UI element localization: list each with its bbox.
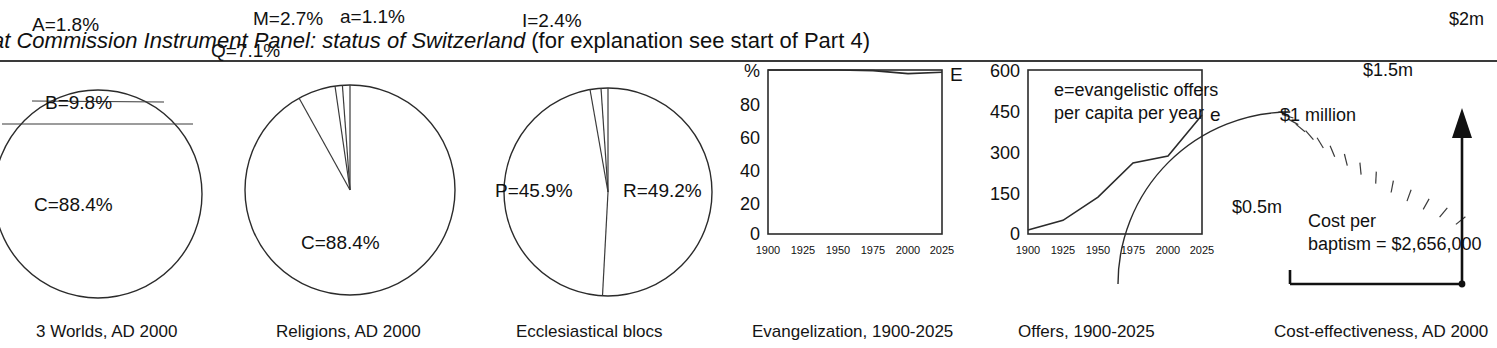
evangelization-series-label: E <box>950 64 963 85</box>
three-worlds-label-b: B=9.8% <box>45 92 112 114</box>
offers-ytick-300: 300 <box>990 143 1020 163</box>
offers-xtick-2025: 2025 <box>1190 244 1214 256</box>
gauge-ticks <box>1278 112 1465 224</box>
evangelization-xtick-1900: 1900 <box>756 244 780 256</box>
evangelization-xtick-2025: 2025 <box>930 244 954 256</box>
gauge-label-0-5m: $0.5m <box>1232 197 1282 218</box>
panel-religions: M=2.7% Q=7.1% a=1.1% C=88.4% <box>215 62 495 312</box>
evangelization-ytick-pct: % <box>744 61 760 81</box>
ecclesiastical-divider-bottom <box>603 192 609 296</box>
panel-offers: 600 450 300 150 0 1900 1925 1950 1975 20… <box>982 62 1257 312</box>
religions-label-c: C=88.4% <box>301 232 380 254</box>
offers-ytick-150: 150 <box>990 184 1020 204</box>
panel-cost-effectiveness: $0.5m $1 million $1.5m $2m Cost per bapt… <box>1240 62 1497 312</box>
offers-xtick-1925: 1925 <box>1051 244 1075 256</box>
offers-note-line1: e=evangelistic offers <box>1054 79 1218 102</box>
caption-evangelization: Evangelization, 1900-2025 <box>752 322 953 342</box>
evangelization-chart: % 80 60 40 20 0 1900 1925 1950 1975 2000… <box>722 62 992 312</box>
offers-note-line2: per capita per year <box>1054 102 1218 125</box>
gauge-label-1-5m: $1.5m <box>1363 60 1413 81</box>
gauge-note-line1: Cost per <box>1308 210 1482 233</box>
caption-three-worlds: 3 Worlds, AD 2000 <box>36 322 177 342</box>
religions-divider-q <box>299 98 350 190</box>
offers-ytick-0: 0 <box>1010 224 1020 244</box>
religions-pie <box>245 85 455 295</box>
offers-ytick-450: 450 <box>990 102 1020 122</box>
panel-three-worlds: A=1.8% B=9.8% C=88.4% <box>0 62 210 312</box>
offers-xtick-1975: 1975 <box>1121 244 1145 256</box>
caption-ecclesiastical-blocs: Ecclesiastical blocs <box>516 322 662 342</box>
gauge-note: Cost per baptism = $2,656,000 <box>1308 210 1482 256</box>
evangelization-ytick-60: 60 <box>740 128 760 148</box>
evangelization-ytick-80: 80 <box>740 95 760 115</box>
gauge-frame <box>1290 270 1462 284</box>
offers-xtick-1950: 1950 <box>1086 244 1110 256</box>
religions-divider-m <box>335 86 350 190</box>
religions-chart <box>215 62 495 312</box>
evangelization-ytick-20: 20 <box>740 194 760 214</box>
offers-series-e <box>1028 115 1202 230</box>
caption-cost-effectiveness: Cost-effectiveness, AD 2000 <box>1274 322 1488 342</box>
panel-ecclesiastical-blocs: I=2.4% P=45.9% R=49.2% <box>480 62 740 312</box>
three-worlds-label-c: C=88.4% <box>34 194 113 216</box>
ecclesiastical-divider-x <box>590 90 608 193</box>
ecclesiastical-divider-i <box>601 88 608 192</box>
evangelization-xtick-2000: 2000 <box>896 244 920 256</box>
religions-label-a: a=1.1% <box>340 6 405 28</box>
three-worlds-label-a: A=1.8% <box>32 14 99 36</box>
gauge-note-line2: baptism = $2,656,000 <box>1308 233 1482 256</box>
cost-effectiveness-gauge <box>1240 62 1497 312</box>
offers-ytick-600: 600 <box>990 61 1020 81</box>
evangelization-xtick-1925: 1925 <box>791 244 815 256</box>
religions-label-q: Q=7.1% <box>211 40 280 62</box>
evangelization-plot-frame <box>768 70 942 234</box>
offers-xtick-2000: 2000 <box>1156 244 1180 256</box>
ecclesiastical-label-p: P=45.9% <box>495 180 573 202</box>
evangelization-xtick-1950: 1950 <box>826 244 850 256</box>
evangelization-ytick-0: 0 <box>750 224 760 244</box>
gauge-label-2m: $2m <box>1449 9 1484 30</box>
offers-xtick-1900: 1900 <box>1016 244 1040 256</box>
ecclesiastical-label-r: R=49.2% <box>623 180 702 202</box>
panel-evangelization: % 80 60 40 20 0 1900 1925 1950 1975 2000… <box>722 62 992 312</box>
religions-divider-a <box>342 85 350 190</box>
religions-label-m: M=2.7% <box>253 8 323 30</box>
ecclesiastical-label-i: I=2.4% <box>522 10 582 32</box>
evangelization-xtick-1975: 1975 <box>861 244 885 256</box>
offers-note: e=evangelistic offers per capita per yea… <box>1054 79 1218 125</box>
instrument-panel-page: at Commission Instrument Panel: status o… <box>0 0 1497 348</box>
caption-offers: Offers, 1900-2025 <box>1018 322 1155 342</box>
caption-religions: Religions, AD 2000 <box>276 322 421 342</box>
gauge-needle <box>1452 108 1472 287</box>
page-title: at Commission Instrument Panel: status o… <box>0 28 992 54</box>
gauge-label-1m: $1 million <box>1280 105 1356 126</box>
evangelization-ytick-40: 40 <box>740 161 760 181</box>
